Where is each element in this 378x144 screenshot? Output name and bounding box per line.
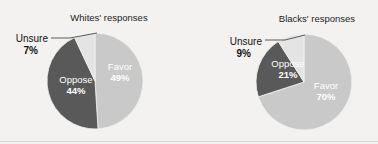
left-oppose-label: Oppose: [59, 74, 92, 85]
right-oppose-value: 21%: [278, 69, 298, 80]
figure-canvas: Whites' responses Favor 49% Oppose 44% U…: [0, 0, 378, 144]
left-chart-title: Whites' responses: [70, 12, 148, 23]
left-pie-chart: Whites' responses Favor 49% Oppose 44% U…: [16, 12, 148, 129]
left-favor-value: 49%: [110, 72, 130, 83]
left-unsure-value: 7%: [24, 45, 39, 56]
right-chart-title: Blacks' responses: [279, 13, 356, 24]
left-favor-label: Favor: [108, 61, 132, 72]
right-unsure-label: Unsure: [230, 36, 263, 47]
right-pie-chart: Blacks' responses Favor 70% Oppose 21% U…: [230, 13, 356, 130]
left-oppose-value: 44%: [66, 85, 86, 96]
two-pie-chart-figure: Whites' responses Favor 49% Oppose 44% U…: [0, 0, 378, 144]
right-favor-label: Favor: [314, 80, 338, 91]
left-unsure-label: Unsure: [16, 33, 49, 44]
right-unsure-value: 9%: [237, 48, 252, 59]
right-oppose-label: Oppose: [271, 58, 304, 69]
right-favor-value: 70%: [316, 91, 336, 102]
